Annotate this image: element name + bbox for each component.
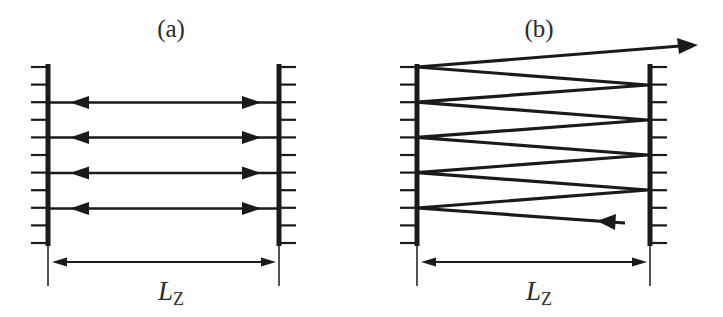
panel-b-label: (b): [524, 15, 553, 43]
beam-paths-a: [48, 96, 279, 215]
left-mirror-b: [400, 64, 417, 286]
left-mirror-a-hatching: [31, 67, 48, 243]
right-mirror-a-hatching: [279, 67, 296, 243]
panel-a-label: (a): [157, 15, 185, 43]
beam-path-a-3: [48, 167, 279, 180]
dimension-label-b: LZ: [525, 276, 552, 309]
zigzag-path: [417, 46, 680, 223]
beam-path-a-4: [48, 202, 279, 215]
panel-b: (b): [400, 15, 698, 309]
cavity-diagram: (a): [0, 0, 723, 317]
dimension-label-a: LZ: [157, 276, 184, 309]
beam-path-a-2: [48, 131, 279, 144]
exit-arrowhead: [677, 38, 698, 54]
left-mirror-a: [31, 64, 48, 286]
panel-a: (a): [31, 15, 296, 309]
beam-path-a-1: [48, 96, 279, 109]
dimension-arrow-a: [52, 258, 276, 267]
right-mirror-b-hatching: [650, 67, 667, 243]
entry-arrowhead: [597, 214, 616, 230]
left-mirror-b-hatching: [400, 67, 417, 243]
dimension-arrow-b: [421, 258, 647, 267]
right-mirror-a: [279, 64, 296, 286]
right-mirror-b: [650, 64, 667, 286]
